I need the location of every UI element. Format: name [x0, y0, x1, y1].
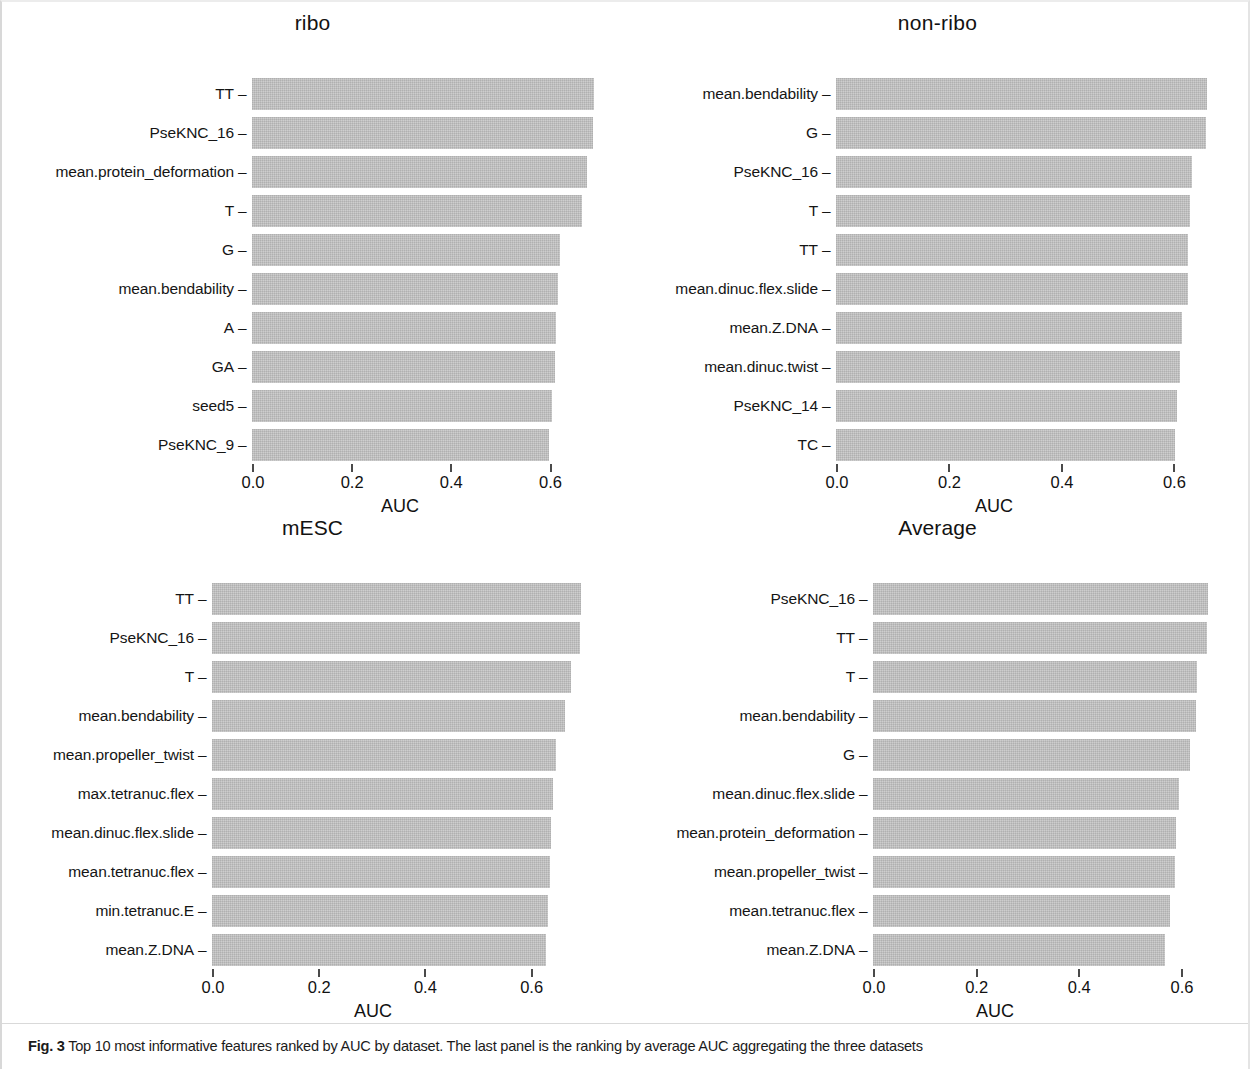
bar-track — [836, 74, 1250, 113]
bar-category-label: PseKNC_16 — [0, 124, 238, 142]
bar-track — [873, 930, 1250, 969]
panel-non-ribo: non-ribo mean.bendability–G–PseKNC_16–T–… — [625, 6, 1250, 511]
bar — [873, 778, 1179, 810]
bar-track — [212, 579, 625, 618]
bar — [836, 117, 1206, 149]
panel-grid: ribo TT–PseKNC_16–mean.protein_deformati… — [0, 6, 1250, 1016]
y-axis-tick-icon: – — [822, 358, 836, 376]
bar-row: mean.Z.DNA– — [625, 308, 1250, 347]
y-axis-tick-icon: – — [238, 163, 252, 181]
bar — [873, 700, 1196, 732]
bar-category-label: mean.propeller_twist — [0, 746, 198, 764]
bar — [212, 700, 566, 732]
bar-category-label: mean.dinuc.flex.slide — [0, 824, 198, 842]
y-axis-tick-icon: – — [198, 629, 212, 647]
bar-row: A– — [0, 308, 625, 347]
bar-row: mean.bendability– — [625, 74, 1250, 113]
y-axis-tick-icon: – — [859, 941, 873, 959]
y-axis-tick-icon: – — [198, 824, 212, 842]
y-axis-tick-icon: – — [198, 863, 212, 881]
bar-track — [873, 735, 1250, 774]
bar-category-label: mean.Z.DNA — [625, 319, 822, 337]
bar-row: max.tetranuc.flex– — [0, 774, 625, 813]
bar — [212, 895, 549, 927]
bar-row: G– — [625, 735, 1250, 774]
bar-row: mean.protein_deformation– — [625, 813, 1250, 852]
x-axis-tick — [212, 969, 214, 977]
bar — [252, 429, 550, 461]
caption-divider — [2, 1023, 1248, 1024]
bar-track — [873, 657, 1250, 696]
x-axis-tick-label: 0.4 — [1068, 978, 1091, 997]
x-axis: 0.00.20.40.6 — [625, 969, 1250, 1000]
y-axis-tick-icon: – — [238, 202, 252, 220]
x-axis-tick — [351, 464, 353, 472]
y-axis-tick-icon: – — [859, 863, 873, 881]
bar-row: mean.protein_deformation– — [0, 152, 625, 191]
y-axis-tick-icon: – — [822, 124, 836, 142]
y-axis-tick-icon: – — [822, 241, 836, 259]
bar-row: mean.bendability– — [0, 269, 625, 308]
panel-ribo: ribo TT–PseKNC_16–mean.protein_deformati… — [0, 6, 625, 511]
bar — [836, 156, 1192, 188]
bar-category-label: max.tetranuc.flex — [0, 785, 198, 803]
figure-caption: Fig. 3 Top 10 most informative features … — [28, 1036, 1224, 1056]
bar-row: T– — [625, 191, 1250, 230]
y-axis-tick-icon: – — [822, 397, 836, 415]
bar — [836, 273, 1188, 305]
bar — [212, 778, 553, 810]
bar-track — [252, 386, 625, 425]
bar — [252, 156, 587, 188]
bar — [252, 78, 595, 110]
bar-track — [836, 230, 1250, 269]
bar-track — [873, 852, 1250, 891]
x-axis: 0.00.20.40.6 — [0, 969, 625, 1000]
bar — [212, 661, 571, 693]
bar — [873, 583, 1208, 615]
bar-row: T– — [0, 657, 625, 696]
bar-category-label: mean.tetranuc.flex — [625, 902, 859, 920]
bar — [836, 429, 1176, 461]
bar — [873, 661, 1197, 693]
bar-track — [252, 230, 625, 269]
bar-category-label: T — [625, 668, 859, 686]
bar-category-label: mean.Z.DNA — [0, 941, 198, 959]
y-axis-tick-icon: – — [198, 941, 212, 959]
y-axis-tick-icon: – — [859, 824, 873, 842]
bar-category-label: A — [0, 319, 238, 337]
bar-track — [252, 308, 625, 347]
bar-category-label: mean.propeller_twist — [625, 863, 859, 881]
x-axis-tick-label: 0.0 — [242, 473, 265, 492]
bar-category-label: mean.tetranuc.flex — [0, 863, 198, 881]
bar-track — [836, 425, 1250, 464]
x-axis-tick — [948, 464, 950, 472]
bar-track — [252, 347, 625, 386]
bar — [836, 312, 1182, 344]
y-axis-tick-icon: – — [859, 707, 873, 725]
bar-category-label: seed5 — [0, 397, 238, 415]
bar — [873, 817, 1177, 849]
bar-track — [212, 930, 625, 969]
y-axis-tick-icon: – — [198, 707, 212, 725]
y-axis-tick-icon: – — [822, 280, 836, 298]
bar-track — [836, 152, 1250, 191]
bar-track — [252, 113, 625, 152]
bar — [252, 117, 594, 149]
bar-category-label: PseKNC_16 — [0, 629, 198, 647]
bar-track — [252, 152, 625, 191]
figure-number: Fig. 3 — [28, 1038, 65, 1054]
bar-track — [873, 891, 1250, 930]
bar-track — [212, 618, 625, 657]
bar-row: PseKNC_16– — [0, 113, 625, 152]
bar-category-label: mean.dinuc.twist — [625, 358, 822, 376]
panel-average: Average PseKNC_16–TT–T–mean.bendability–… — [625, 511, 1250, 1016]
y-axis-tick-icon: – — [238, 241, 252, 259]
bar-track — [252, 191, 625, 230]
bar-track — [212, 774, 625, 813]
x-axis-tick — [836, 464, 838, 472]
y-axis-tick-icon: – — [822, 202, 836, 220]
x-axis-tick — [1173, 464, 1175, 472]
y-axis-tick-icon: – — [859, 785, 873, 803]
bar-row: PseKNC_16– — [625, 579, 1250, 618]
y-axis-tick-icon: – — [859, 902, 873, 920]
